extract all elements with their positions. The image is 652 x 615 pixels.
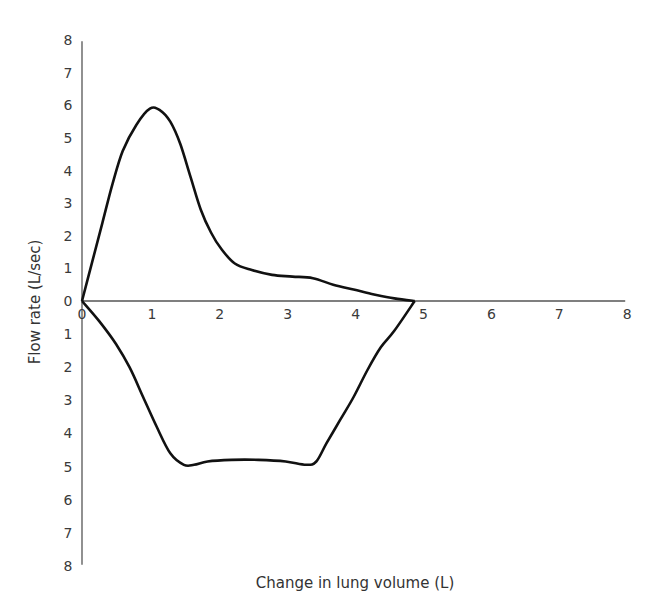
x-tick-label: 6	[487, 306, 496, 322]
x-tick-label: 8	[623, 306, 632, 322]
x-tick-label: 7	[555, 306, 564, 322]
flow-volume-chart: 012345678 01234567812345678 Change in lu…	[0, 0, 652, 615]
y-tick-label: 3	[64, 392, 73, 408]
x-axis-label: Change in lung volume (L)	[256, 574, 455, 592]
x-tick-label: 5	[419, 306, 428, 322]
y-tick-label: 4	[64, 163, 73, 179]
expiration-curve	[82, 108, 415, 301]
axes	[82, 41, 625, 565]
x-tick-label: 1	[147, 306, 156, 322]
x-tick-label: 3	[283, 306, 292, 322]
y-tick-label: 6	[64, 97, 73, 113]
x-tick-label: 0	[78, 306, 87, 322]
y-tick-label: 2	[64, 228, 73, 244]
y-tick-label: 6	[64, 492, 73, 508]
y-tick-label: 5	[64, 130, 73, 146]
y-axis-ticks: 01234567812345678	[64, 32, 73, 574]
y-tick-label: 4	[64, 425, 73, 441]
inspiration-curve	[82, 301, 415, 466]
y-tick-label: 8	[64, 558, 73, 574]
y-tick-label: 0	[64, 293, 73, 309]
y-tick-label: 1	[64, 326, 73, 342]
y-tick-label: 1	[64, 260, 73, 276]
y-tick-label: 7	[64, 525, 73, 541]
x-tick-label: 4	[351, 306, 360, 322]
y-tick-label: 5	[64, 459, 73, 475]
x-tick-label: 2	[215, 306, 224, 322]
y-tick-label: 7	[64, 65, 73, 81]
curves	[82, 108, 415, 466]
y-tick-label: 2	[64, 359, 73, 375]
y-tick-label: 8	[64, 32, 73, 48]
y-tick-label: 3	[64, 195, 73, 211]
x-axis-ticks: 012345678	[78, 306, 632, 322]
y-axis-label: Flow rate (L/sec)	[26, 240, 44, 365]
